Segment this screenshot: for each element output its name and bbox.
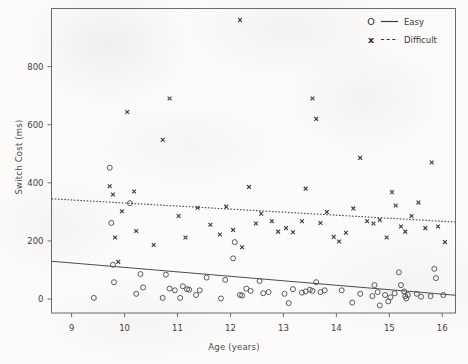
x-tick-label: 11 bbox=[172, 323, 183, 333]
data-point-marker bbox=[218, 296, 223, 301]
y-axis-ticks: 0200400600800 bbox=[27, 62, 51, 304]
data-point-marker bbox=[290, 287, 295, 292]
data-point-marker bbox=[377, 303, 382, 308]
data-point-marker bbox=[109, 220, 114, 225]
data-point-marker bbox=[441, 292, 446, 297]
data-point-marker bbox=[160, 295, 165, 300]
data-point-marker bbox=[286, 301, 291, 306]
data-point-marker bbox=[167, 286, 172, 291]
data-point-marker bbox=[231, 256, 236, 261]
data-point-marker bbox=[432, 266, 437, 271]
data-point-marker bbox=[163, 272, 168, 277]
x-axis-ticks: 910111213141516 bbox=[69, 313, 448, 333]
data-points-difficult bbox=[108, 18, 447, 264]
data-points-easy bbox=[91, 165, 445, 308]
data-point-marker bbox=[178, 295, 183, 300]
legend-circle-icon: O bbox=[367, 16, 374, 27]
data-point-marker bbox=[370, 294, 375, 299]
data-point-marker bbox=[396, 270, 401, 275]
x-tick-label: 15 bbox=[384, 323, 395, 333]
data-point-marker bbox=[358, 291, 363, 296]
y-tick-label: 200 bbox=[27, 236, 43, 246]
data-point-marker bbox=[350, 300, 355, 305]
legend-x-icon: x bbox=[368, 34, 374, 45]
data-point-marker bbox=[111, 280, 116, 285]
y-tick-label: 400 bbox=[27, 178, 43, 188]
data-point-marker bbox=[428, 294, 433, 299]
x-tick-label: 12 bbox=[225, 323, 236, 333]
data-point-marker bbox=[194, 292, 199, 297]
y-tick-label: 800 bbox=[27, 62, 43, 72]
data-point-marker bbox=[248, 288, 253, 293]
plot-canvas: 910111213141516 0200400600800 O Easy x D… bbox=[0, 0, 468, 364]
data-point-marker bbox=[433, 276, 438, 281]
data-point-marker bbox=[232, 240, 237, 245]
data-point-marker bbox=[138, 272, 143, 277]
data-point-marker bbox=[197, 288, 202, 293]
data-point-marker bbox=[134, 291, 139, 296]
data-point-marker bbox=[204, 275, 209, 280]
x-axis-label: Age (years) bbox=[0, 342, 468, 352]
data-point-marker bbox=[282, 291, 287, 296]
x-tick-label: 16 bbox=[437, 323, 448, 333]
data-point-marker bbox=[372, 283, 377, 288]
data-point-marker bbox=[383, 292, 388, 297]
y-tick-label: 600 bbox=[27, 120, 43, 130]
legend-label-easy: Easy bbox=[404, 17, 424, 27]
x-tick-label: 13 bbox=[278, 323, 289, 333]
data-point-marker bbox=[172, 288, 177, 293]
x-tick-label: 9 bbox=[69, 323, 74, 333]
data-point-marker bbox=[266, 290, 271, 295]
data-point-marker bbox=[322, 288, 327, 293]
data-point-marker bbox=[375, 290, 380, 295]
data-point-marker bbox=[107, 165, 112, 170]
data-point-marker bbox=[398, 283, 403, 288]
legend: O Easy x Difficult bbox=[367, 16, 437, 45]
data-point-marker bbox=[223, 277, 228, 282]
data-point-marker bbox=[261, 291, 266, 296]
legend-label-difficult: Difficult bbox=[404, 35, 438, 45]
data-point-marker bbox=[392, 291, 397, 296]
x-tick-label: 14 bbox=[331, 323, 342, 333]
scatter-plot-figure: 910111213141516 0200400600800 O Easy x D… bbox=[0, 0, 468, 364]
data-point-marker bbox=[91, 295, 96, 300]
regression-line-difficult bbox=[52, 199, 456, 222]
data-point-marker bbox=[388, 295, 393, 300]
data-point-marker bbox=[339, 288, 344, 293]
y-tick-label: 0 bbox=[38, 294, 43, 304]
data-point-marker bbox=[141, 285, 146, 290]
regression-line-easy bbox=[52, 261, 456, 295]
y-axis-label: Switch Cost (ms) bbox=[14, 102, 24, 212]
data-point-marker bbox=[419, 294, 424, 299]
x-tick-label: 10 bbox=[119, 323, 130, 333]
